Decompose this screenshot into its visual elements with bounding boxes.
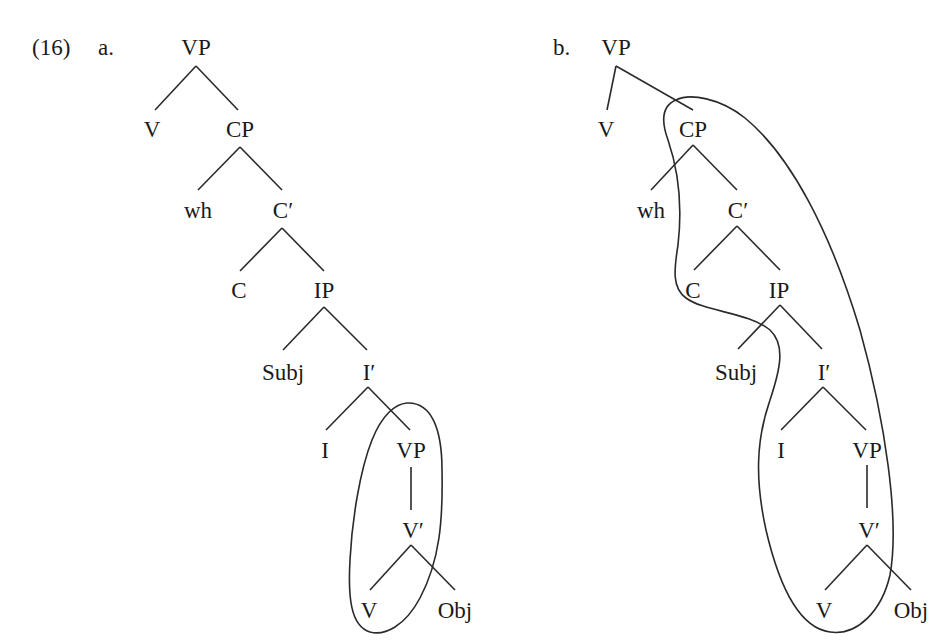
node-b-cp: CP [679,118,707,141]
node-a-ip: IP [314,279,334,302]
node-a-ibar: I′ [363,361,376,384]
node-a-c: C [231,279,246,302]
node-a-subj: Subj [262,361,304,384]
node-b-vp2: VP [852,439,881,462]
node-a-vp: VP [181,36,210,59]
node-b-i: I [777,439,785,462]
node-b-wh: wh [637,199,665,222]
node-a-obj: Obj [438,599,473,622]
tree-a-branches [155,66,455,590]
tree-b-branches [607,66,911,590]
node-b-vp: VP [601,36,630,59]
node-b-c: C [685,279,700,302]
node-b-v2: V [816,599,833,622]
node-a-vbar: V′ [402,519,424,542]
node-a-vp2: VP [396,439,425,462]
node-b-obj: Obj [894,599,929,622]
node-b-vbar: V′ [858,519,880,542]
node-a-i: I [321,439,329,462]
node-b-ip: IP [769,279,789,302]
node-b-ibar: I′ [818,361,831,384]
node-a-wh: wh [184,199,212,222]
node-b-v: V [598,118,615,141]
node-b-subj: Subj [715,361,757,384]
node-a-v2: V [361,599,378,622]
node-a-cp: CP [226,118,254,141]
tree-b-enclosure [664,97,893,632]
node-a-cbar: C′ [273,199,293,222]
tree-diagram-graphics [0,0,948,644]
node-b-cbar: C′ [728,199,748,222]
node-a-v: V [144,118,161,141]
